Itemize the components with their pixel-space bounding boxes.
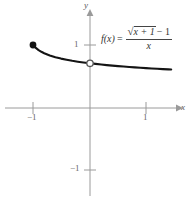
x-tick-label-neg1: −1 — [27, 112, 37, 122]
formula-function-name: f(x) — [101, 33, 115, 44]
y-tick-label-1: 1 — [74, 39, 79, 49]
y-axis-arrow-icon — [87, 9, 94, 16]
function-formula: f(x) = √ x + 1 − 1 x — [101, 26, 172, 51]
x-axis-label: x — [181, 102, 185, 112]
formula-equals-sign: = — [117, 33, 123, 44]
filled-endpoint-dot — [30, 42, 37, 49]
y-axis-label: y — [84, 0, 88, 10]
formula-denominator: x — [144, 40, 152, 52]
formula-minus-one: − 1 — [157, 27, 170, 38]
x-tick-label-1: 1 — [143, 112, 148, 122]
formula-radicand: x + 1 — [134, 26, 156, 38]
open-circle-hole — [87, 60, 93, 66]
formula-numerator: √ x + 1 − 1 — [126, 26, 172, 39]
formula-fraction: √ x + 1 − 1 x — [126, 26, 172, 51]
function-graph-figure: x y −1 1 1 −1 f(x) = √ x + 1 − 1 x — [0, 0, 190, 203]
y-tick-label-neg1: −1 — [70, 163, 80, 173]
square-root-icon: √ x + 1 — [128, 26, 156, 38]
